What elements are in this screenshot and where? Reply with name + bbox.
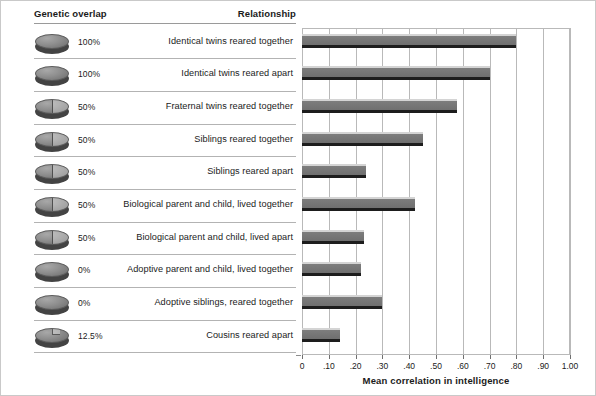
table-row: 50%Fraternal twins reared together: [34, 92, 296, 125]
bar: [302, 34, 516, 48]
genetic-overlap-value: 100%: [78, 69, 100, 79]
bar: [302, 197, 415, 211]
bar-shadow-base: [302, 45, 516, 48]
x-tick-label: .90: [537, 361, 549, 371]
disc-half-icon: [34, 229, 70, 251]
gridline: [490, 28, 491, 355]
bar-body: [302, 132, 423, 143]
disc-face: [35, 164, 69, 179]
disc-full-icon: [34, 65, 70, 87]
x-tick-label: 0: [300, 361, 305, 371]
x-axis-tick-labels: 0.10.20.30.40.50.60.70.80.901.00: [302, 356, 570, 370]
relationship-label: Fraternal twins reared together: [166, 101, 293, 111]
genetic-overlap-value: 12.5%: [78, 331, 103, 341]
genetic-overlap-value: 50%: [78, 233, 95, 243]
genetic-overlap-value: 50%: [78, 200, 95, 210]
relationship-label: Adoptive siblings, reared together: [154, 297, 293, 307]
table-row: 50%Biological parent and child, lived to…: [34, 190, 296, 223]
bar-shadow-base: [302, 241, 364, 244]
bar-shadow-base: [302, 273, 361, 276]
row-divider: [34, 352, 296, 353]
bar-chart-plot-area: [302, 28, 570, 355]
bar: [302, 262, 361, 276]
disc-small-wedge: [52, 329, 60, 336]
relationship-label: Identical twins reared apart: [181, 68, 293, 78]
gridline: [543, 28, 544, 355]
bar-body: [302, 328, 340, 339]
disc-full-icon: [34, 33, 70, 55]
bar-body: [302, 295, 382, 306]
bar: [302, 328, 340, 342]
bar-shadow-base: [302, 208, 415, 211]
header-divider: [34, 23, 296, 24]
disc-face: [35, 230, 69, 245]
disc-half-wedge: [52, 100, 68, 113]
bar-shadow-base: [302, 306, 382, 309]
bar-shadow-base: [302, 175, 366, 178]
disc-empty-icon: [34, 294, 70, 316]
disc-half-wedge: [52, 133, 68, 146]
disc-half-wedge: [52, 198, 68, 211]
bar-body: [302, 262, 361, 273]
genetic-overlap-value: 100%: [78, 37, 100, 47]
relationship-label: Biological parent and child, lived apart: [136, 232, 293, 242]
x-tick-label: .40: [403, 361, 415, 371]
relationship-label: Cousins reared apart: [206, 330, 293, 340]
bar-body: [302, 99, 457, 110]
bar: [302, 66, 490, 80]
x-tick-label: .80: [510, 361, 522, 371]
relationship-label: Identical twins reared together: [168, 36, 293, 46]
gridline: [570, 28, 571, 355]
genetic-overlap-value: 50%: [78, 102, 95, 112]
bar-shadow-base: [302, 77, 490, 80]
bar-shadow-base: [302, 110, 457, 113]
table-row: 12.5%Cousins reared apart: [34, 321, 296, 354]
bar: [302, 230, 364, 244]
disc-eighth-icon: [34, 327, 70, 349]
table-row: 50%Siblings reared together: [34, 125, 296, 158]
table-row: 100%Identical twins reared apart: [34, 59, 296, 92]
genetic-overlap-value: 0%: [78, 298, 91, 308]
tick-mark: [570, 355, 571, 359]
x-axis-title: Mean correlation in intelligence: [302, 375, 570, 386]
bar: [302, 164, 366, 178]
bar-body: [302, 34, 516, 45]
genetic-overlap-value: 0%: [78, 265, 91, 275]
relationship-table: Genetic overlap Relationship 100%Identic…: [1, 1, 299, 396]
bar-shadow-base: [302, 339, 340, 342]
disc-half-icon: [34, 196, 70, 218]
column-header-genetic-overlap: Genetic overlap: [34, 8, 107, 19]
disc-face: [35, 132, 69, 147]
bar: [302, 132, 423, 146]
axis-origin-stub: [296, 355, 301, 356]
bar-body: [302, 230, 364, 241]
disc-face: [35, 99, 69, 114]
disc-face: [35, 328, 69, 343]
table-row: 0%Adoptive siblings, reared together: [34, 288, 296, 321]
x-tick-label: .60: [457, 361, 469, 371]
disc-face: [35, 295, 69, 310]
disc-half-icon: [34, 163, 70, 185]
genetic-overlap-correlation-figure: Genetic overlap Relationship 100%Identic…: [0, 0, 596, 396]
genetic-overlap-value: 50%: [78, 167, 95, 177]
x-tick-label: .20: [350, 361, 362, 371]
table-row: 100%Identical twins reared together: [34, 27, 296, 60]
table-row: 50%Siblings reared apart: [34, 157, 296, 190]
x-tick-label: .10: [323, 361, 335, 371]
relationship-label: Siblings reared together: [194, 134, 293, 144]
bar-body: [302, 164, 366, 175]
gridline: [516, 28, 517, 355]
disc-face: [35, 197, 69, 212]
disc-half-wedge: [52, 231, 68, 244]
bar-body: [302, 66, 490, 77]
disc-half-icon: [34, 131, 70, 153]
disc-half-icon: [34, 98, 70, 120]
x-tick-label: .70: [484, 361, 496, 371]
x-tick-label: 1.00: [562, 361, 579, 371]
disc-face: [35, 34, 69, 49]
column-header-relationship: Relationship: [161, 8, 296, 19]
table-row: 0%Adoptive parent and child, lived toget…: [34, 255, 296, 288]
relationship-label: Adoptive parent and child, lived togethe…: [127, 264, 293, 274]
bar-body: [302, 197, 415, 208]
genetic-overlap-value: 50%: [78, 135, 95, 145]
